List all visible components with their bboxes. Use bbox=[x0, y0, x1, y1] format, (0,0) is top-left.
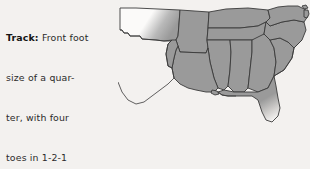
atlantic-coastline bbox=[274, 40, 302, 76]
chesapeake-detail bbox=[304, 10, 309, 18]
description-line-1: Track: Front foot bbox=[6, 31, 118, 44]
description-line-2: size of a quar- bbox=[6, 71, 118, 84]
figure-panel: Track: Front foot size of a quar- ter, w… bbox=[0, 0, 310, 169]
state-virginia bbox=[266, 6, 308, 26]
track-description: Track: Front foot size of a quar- ter, w… bbox=[6, 4, 268, 169]
state-south-carolina bbox=[270, 38, 294, 76]
description-line-4: toes in 1-2-1 bbox=[6, 151, 118, 164]
delmarva-detail bbox=[302, 5, 308, 9]
description-line-1-text: Front foot bbox=[39, 32, 89, 43]
description-line-3: ter, with four bbox=[6, 111, 118, 124]
track-label: Track: bbox=[6, 32, 39, 43]
state-north-carolina bbox=[264, 20, 306, 48]
